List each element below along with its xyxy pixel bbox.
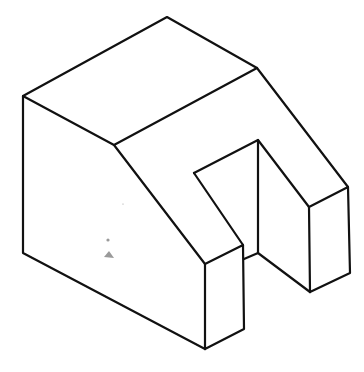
- isometric-block-drawing: [0, 0, 364, 372]
- slant-edge-right: [257, 68, 348, 187]
- speck: [104, 251, 114, 258]
- left-face-outline: [23, 96, 205, 349]
- notch-slant-left: [194, 173, 243, 245]
- speck: [106, 238, 109, 241]
- right-pillar: [309, 187, 350, 292]
- left-pillar: [205, 245, 244, 349]
- slant-edge-left: [114, 145, 205, 264]
- notch-floor: [244, 253, 310, 292]
- top-face: [23, 17, 257, 145]
- speck: [122, 203, 123, 204]
